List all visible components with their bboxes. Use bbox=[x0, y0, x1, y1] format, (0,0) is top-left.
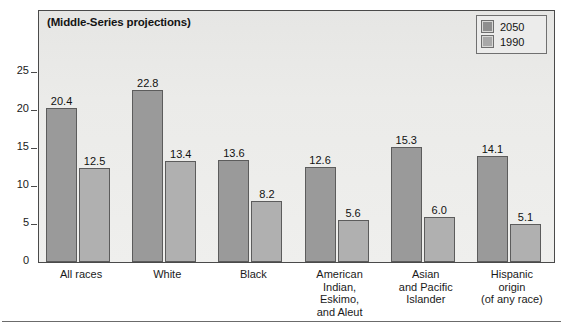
legend-item-2050: 2050 bbox=[482, 19, 541, 34]
bar-value-label: 12.5 bbox=[84, 155, 105, 167]
y-axis-tick-mark bbox=[31, 72, 37, 73]
bar-1990: 13.4 bbox=[165, 161, 196, 262]
bar-value-label: 22.8 bbox=[137, 77, 158, 89]
category-label-line: and Aleut bbox=[297, 306, 383, 319]
category-label-line: Asian bbox=[383, 268, 469, 281]
y-axis-tick-label: 5 bbox=[23, 216, 29, 228]
y-axis-tick-mark bbox=[31, 186, 37, 187]
bar-2050: 22.8 bbox=[132, 90, 163, 262]
bar-value-label: 8.2 bbox=[259, 188, 274, 200]
bar-value-label: 6.0 bbox=[432, 204, 447, 216]
category-label: Asianand PacificIslander bbox=[383, 268, 469, 306]
legend-item-1990: 1990 bbox=[482, 34, 541, 49]
y-axis: 0510152025 bbox=[0, 0, 38, 330]
legend-label-2050: 2050 bbox=[500, 21, 524, 33]
bar-group: 20.412.5 bbox=[39, 11, 125, 262]
chart-title: (Middle-Series projections) bbox=[47, 16, 191, 28]
bar-value-label: 15.3 bbox=[396, 134, 417, 146]
bar-2050: 13.6 bbox=[218, 160, 249, 262]
bar-value-label: 13.6 bbox=[223, 147, 244, 159]
bar-group: 12.65.6 bbox=[298, 11, 384, 262]
bar-2050: 12.6 bbox=[305, 167, 336, 262]
bar-group: 15.36.0 bbox=[384, 11, 470, 262]
chart-legend: 2050 1990 bbox=[476, 15, 547, 54]
bar-1990: 5.6 bbox=[338, 220, 369, 262]
category-label-line: Black bbox=[210, 268, 296, 281]
bar-value-label: 5.6 bbox=[345, 207, 360, 219]
bar-1990: 5.1 bbox=[510, 224, 541, 262]
y-axis-tick-mark bbox=[31, 148, 37, 149]
category-label-line: White bbox=[124, 268, 210, 281]
y-axis-tick-label: 0 bbox=[23, 254, 29, 266]
legend-label-1990: 1990 bbox=[500, 36, 524, 48]
bar-value-label: 14.1 bbox=[482, 143, 503, 155]
category-label-line: All races bbox=[38, 268, 124, 281]
legend-swatch-icon-2050 bbox=[482, 21, 493, 32]
category-label: White bbox=[124, 268, 210, 281]
bar-1990: 8.2 bbox=[251, 201, 282, 262]
bar-value-label: 13.4 bbox=[170, 148, 191, 160]
bar-value-label: 20.4 bbox=[51, 95, 72, 107]
bar-group: 22.813.4 bbox=[125, 11, 211, 262]
y-axis-tick-label: 10 bbox=[17, 178, 29, 190]
bar-group: 13.68.2 bbox=[211, 11, 297, 262]
category-label-line: Hispanic bbox=[469, 268, 555, 281]
category-label-line: origin bbox=[469, 281, 555, 294]
category-label: AmericanIndian,Eskimo,and Aleut bbox=[297, 268, 383, 318]
y-axis-tick-label: 15 bbox=[17, 140, 29, 152]
category-label: Hispanicorigin(of any race) bbox=[469, 268, 555, 306]
category-label-line: Indian, bbox=[297, 281, 383, 294]
category-label-line: and Pacific bbox=[383, 281, 469, 294]
bar-2050: 20.4 bbox=[46, 108, 77, 262]
category-axis-labels: All racesWhiteBlackAmericanIndian,Eskimo… bbox=[38, 268, 555, 322]
bar-2050: 15.3 bbox=[391, 147, 422, 262]
bar-value-label: 12.6 bbox=[309, 154, 330, 166]
category-label-line: Islander bbox=[383, 293, 469, 306]
bar-1990: 12.5 bbox=[79, 168, 110, 262]
category-label-line: American bbox=[297, 268, 383, 281]
footer-divider bbox=[2, 321, 561, 322]
y-axis-tick-label: 25 bbox=[17, 64, 29, 76]
bar-2050: 14.1 bbox=[477, 156, 508, 262]
category-label: All races bbox=[38, 268, 124, 281]
y-axis-tick-label: 20 bbox=[17, 102, 29, 114]
category-label: Black bbox=[210, 268, 296, 281]
category-label-line: Eskimo, bbox=[297, 293, 383, 306]
category-label-line: (of any race) bbox=[469, 293, 555, 306]
y-axis-tick-mark bbox=[31, 110, 37, 111]
bar-1990: 6.0 bbox=[424, 217, 455, 262]
legend-swatch-icon-1990 bbox=[482, 36, 493, 47]
bar-value-label: 5.1 bbox=[518, 211, 533, 223]
y-axis-tick-mark bbox=[31, 224, 37, 225]
bar-chart-figure: 0510152025 20.412.522.813.413.68.212.65.… bbox=[0, 0, 563, 330]
